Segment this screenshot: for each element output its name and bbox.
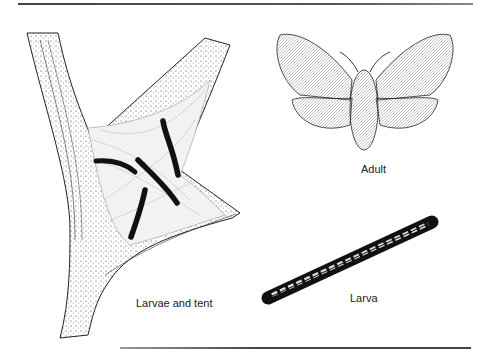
larva-drawing (268, 222, 432, 298)
label-adult: Adult (361, 163, 386, 175)
adult-moth-drawing (277, 34, 453, 150)
label-larvae-and-tent: Larvae and tent (136, 297, 212, 309)
illustration (0, 0, 488, 352)
label-larva: Larva (350, 292, 378, 304)
